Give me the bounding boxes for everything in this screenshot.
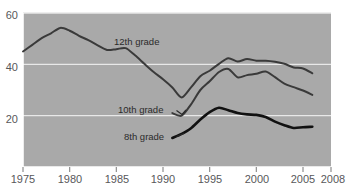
x-tick-label-1990: 1990 <box>151 173 175 185</box>
x-tick-label-1995: 1995 <box>198 173 222 185</box>
plot-background <box>23 13 331 167</box>
y-tick-label-20: 20 <box>6 113 18 125</box>
x-tick-label-2005: 2005 <box>291 173 315 185</box>
x-tick-label-1980: 1980 <box>58 173 82 185</box>
y-tick-label-60: 60 <box>6 9 18 21</box>
x-tick-label-1985: 1985 <box>105 173 129 185</box>
x-tick-label-2008: 2008 <box>321 173 345 185</box>
x-tick-label-2000: 2000 <box>245 173 269 185</box>
y-tick-label-40: 40 <box>6 61 18 73</box>
x-tick-label-1975: 1975 <box>11 173 35 185</box>
chart-container: 60 40 20 1975 1980 1985 1990 1995 2000 2… <box>0 0 350 195</box>
series-label-10th-grade: 10th grade <box>118 104 163 115</box>
series-label-12th-grade: 12th grade <box>114 36 159 47</box>
line-chart: 60 40 20 1975 1980 1985 1990 1995 2000 2… <box>0 0 350 195</box>
series-label-8th-grade: 8th grade <box>124 131 164 142</box>
